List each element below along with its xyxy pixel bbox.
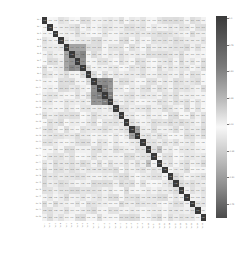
row-label: Var 23 (36, 167, 41, 174)
column-label: Var 14 (115, 223, 116, 228)
heatmap-cell: -0.02 (201, 99, 206, 106)
row-label: Var 17 (36, 126, 41, 133)
colorbar-tick-label: 0.00 (229, 123, 233, 125)
row-label: Var 18 (36, 133, 41, 140)
row-label: Var 29 (36, 207, 41, 214)
heatmap-cell: -0.13 (201, 58, 206, 65)
column-label: Var 13 (109, 223, 110, 228)
row-label: Var 12 (36, 92, 41, 99)
colorbar-tick-label: 0.75 (229, 44, 233, 46)
row-label: Var 7 (37, 58, 41, 65)
heatmap-cell: -0.12 (201, 112, 206, 119)
heatmap-cell: 0.01 (201, 51, 206, 58)
heatmap-cell: -0.03 (201, 44, 206, 51)
row-label: Var 26 (36, 187, 41, 194)
heatmap-cell: -0.15 (201, 160, 206, 167)
heatmap-cell: -0.00 (201, 71, 206, 78)
heatmap-cell: 0.11 (201, 37, 206, 44)
heatmap-cell: 0.09 (201, 194, 206, 201)
row-label: Var 20 (36, 146, 41, 153)
column-label: Var 12 (104, 223, 105, 228)
colorbar-tick-mark (227, 204, 229, 205)
column-label: Var 3 (55, 223, 56, 227)
heatmap-cell: -0.01 (201, 105, 206, 112)
row-label: Var 14 (36, 105, 41, 112)
row-label: Var 15 (36, 112, 41, 119)
column-label: Var 8 (82, 223, 83, 227)
column-label: Var 22 (159, 223, 160, 228)
colorbar-tick-mark (227, 124, 229, 125)
heatmap-cell: -0.13 (201, 133, 206, 140)
row-label: Var 28 (36, 201, 41, 208)
colorbar-tick-mark (227, 71, 229, 72)
heatmap-cell: -0.14 (201, 24, 206, 31)
heatmap-cell: -0.06 (201, 180, 206, 187)
column-label: Var 29 (197, 223, 198, 228)
colorbar-tick-label: -0.50 (229, 176, 234, 178)
column-label: Var 4 (60, 223, 61, 227)
row-label: Var 4 (37, 37, 41, 44)
heatmap-cell: -0.12 (201, 173, 206, 180)
column-label: Var 1 (44, 223, 45, 227)
heatmap-cell: 0.01 (201, 167, 206, 174)
row-label: Var 19 (36, 139, 41, 146)
column-label: Var 6 (71, 223, 72, 227)
heatmap-cell: 0.12 (201, 119, 206, 126)
heatmap-cell: 0.09 (201, 201, 206, 208)
row-label: Var 5 (37, 44, 41, 51)
colorbar-tick-label: -0.75 (229, 203, 234, 205)
row-label: Var 16 (36, 119, 41, 126)
row-label: Var 8 (37, 65, 41, 72)
heatmap-matrix: 1.00-0.000.02-0.12-0.08-0.020.00-0.130.1… (42, 17, 206, 221)
row-label: Var 30 (36, 214, 41, 221)
heatmap-cell: -0.15 (201, 126, 206, 133)
heatmap-cell: 0.01 (201, 78, 206, 85)
column-label: Var 11 (98, 223, 99, 228)
column-label: Var 30 (202, 223, 203, 228)
column-label: Var 5 (66, 223, 67, 227)
column-label: Var 18 (137, 223, 138, 228)
column-label: Var 23 (164, 223, 165, 228)
row-label: Var 21 (36, 153, 41, 160)
heatmap-cell: 0.00 (201, 139, 206, 146)
heatmap-cell: -0.04 (201, 31, 206, 38)
colorbar-tick-mark (227, 18, 229, 19)
heatmap-cell: 0.02 (201, 92, 206, 99)
column-label: Var 28 (191, 223, 192, 228)
heatmap-cell: -0.02 (201, 17, 206, 24)
column-label: Var 27 (186, 223, 187, 228)
row-label: Var 25 (36, 180, 41, 187)
column-label: Var 9 (87, 223, 88, 227)
colorbar-tick-label: 0.25 (229, 97, 233, 99)
heatmap-cell: 0.14 (201, 85, 206, 92)
row-label: Var 1 (37, 17, 41, 24)
row-label: Var 10 (36, 78, 41, 85)
heatmap-cell: 0.02 (201, 207, 206, 214)
row-label: Var 24 (36, 173, 41, 180)
colorbar-tick-mark (227, 45, 229, 46)
correlation-heatmap: Var 1Var 2Var 3Var 4Var 5Var 6Var 7Var 8… (0, 0, 244, 269)
row-label: Var 13 (36, 99, 41, 106)
column-label: Var 25 (175, 223, 176, 228)
column-label: Var 17 (131, 223, 132, 228)
colorbar-tick-mark (227, 177, 229, 178)
column-label: Var 24 (169, 223, 170, 228)
heatmap-cell: 0.11 (201, 187, 206, 194)
heatmap-cell: -0.02 (201, 146, 206, 153)
column-label: Var 2 (49, 223, 50, 227)
column-label: Var 7 (77, 223, 78, 227)
column-label: Var 21 (153, 223, 154, 228)
column-label: Var 15 (120, 223, 121, 228)
row-label: Var 11 (36, 85, 41, 92)
row-label: Var 3 (37, 31, 41, 38)
row-label: Var 6 (37, 51, 41, 58)
colorbar-tick-mark (227, 151, 229, 152)
row-label: Var 9 (37, 71, 41, 78)
heatmap-cell: 1.00 (201, 214, 206, 221)
row-label: Var 22 (36, 160, 41, 167)
colorbar-tick-mark (227, 98, 229, 99)
row-label: Var 27 (36, 194, 41, 201)
colorbar (216, 16, 227, 218)
colorbar-tick-label: -0.25 (229, 150, 234, 152)
column-label: Var 16 (126, 223, 127, 228)
